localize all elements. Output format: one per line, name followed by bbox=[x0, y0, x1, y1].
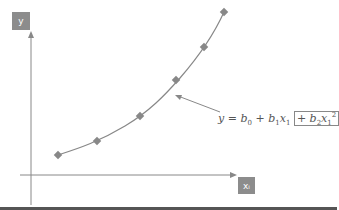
quadratic-curve bbox=[58, 12, 224, 155]
bottom-rule bbox=[0, 207, 337, 210]
annotation-arrow bbox=[178, 96, 220, 112]
x-axis-arrow-icon bbox=[230, 172, 237, 178]
annotation-arrowhead-icon bbox=[175, 95, 182, 100]
regression-equation: y = b0 + b1x1 + b2x12 bbox=[218, 111, 339, 127]
y-axis-label: y bbox=[12, 12, 30, 30]
boxed-quadratic-term: + b2x12 bbox=[294, 111, 339, 126]
x-axis-label: xᵢ bbox=[238, 177, 255, 194]
data-point-markers bbox=[54, 8, 228, 159]
y-axis-arrow-icon bbox=[28, 31, 34, 38]
